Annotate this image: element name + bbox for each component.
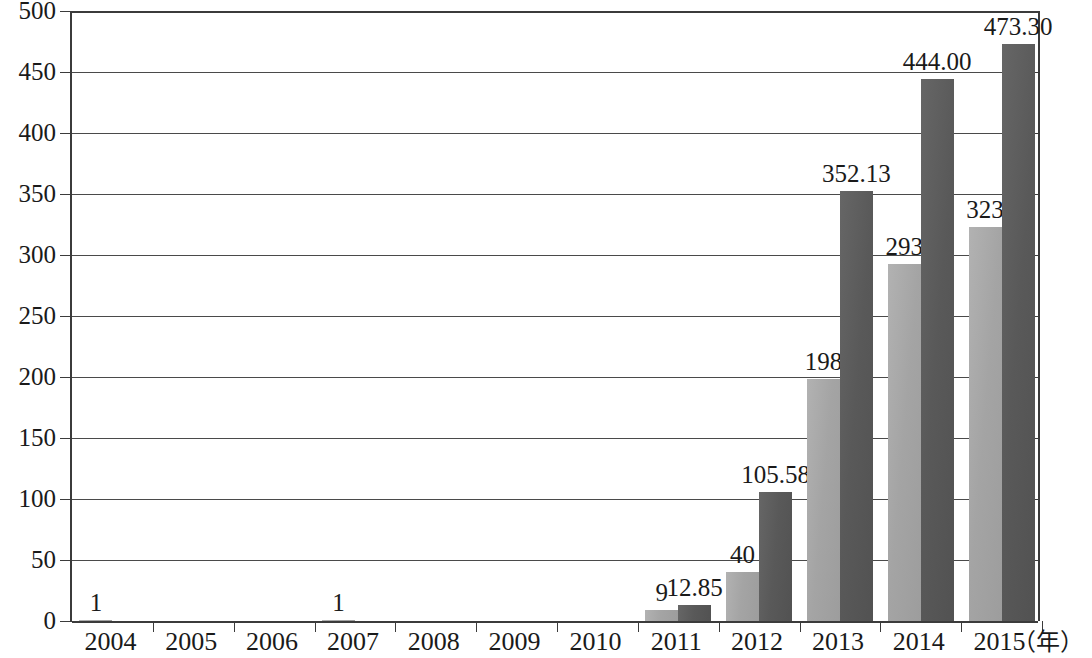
x-axis-unit-label: （年） [1012, 626, 1084, 658]
bar-value-label: 40 [730, 541, 755, 569]
y-tick-label: 250 [19, 300, 57, 331]
x-tick-label-2009: 2009 [474, 626, 555, 658]
bar-group [234, 11, 315, 621]
x-axis-line [72, 621, 1038, 623]
bar-group [153, 11, 234, 621]
bar-series-b-2013[interactable]: 352.13 [840, 191, 873, 621]
y-tick-label: 150 [19, 422, 57, 453]
bar-group: 323473.30 [961, 11, 1042, 621]
bar-group [476, 11, 557, 621]
y-tick-mark [60, 194, 72, 195]
x-tick-label-2007: 2007 [313, 626, 394, 658]
y-tick-mark [60, 438, 72, 439]
bar-value-label: 323 [966, 196, 1004, 224]
y-tick-mark [60, 499, 72, 500]
y-tick-mark [60, 621, 72, 622]
bar-value-label: 1 [90, 589, 103, 617]
bar-value-label: 198 [805, 348, 843, 376]
x-tick-label-2005: 2005 [151, 626, 232, 658]
bar-series-b-2012[interactable]: 105.58 [759, 492, 792, 621]
x-tick-label-2004: 2004 [70, 626, 151, 658]
y-tick-label: 450 [19, 56, 57, 87]
bar-chart: 05010015020025030035040045050011912.8540… [0, 0, 1092, 658]
x-axis-labels: 2004200520062007200820092010201120122013… [70, 626, 1040, 658]
y-tick-label: 200 [19, 361, 57, 392]
bar-pair: 40105.58 [719, 11, 800, 621]
x-tick-label-2014: 2014 [878, 626, 959, 658]
plot-area: 05010015020025030035040045050011912.8540… [70, 11, 1040, 621]
bar-series-a-2004[interactable]: 1 [79, 620, 112, 622]
bar-series-a-2015[interactable]: 323 [969, 227, 1002, 621]
bar-series-a-2012[interactable]: 40 [726, 572, 759, 621]
x-tick-label-2012: 2012 [717, 626, 798, 658]
bar-pair [153, 11, 234, 621]
bar-group: 1 [72, 11, 153, 621]
x-tick-label-2013: 2013 [798, 626, 879, 658]
y-tick-mark [60, 316, 72, 317]
bar-pair: 912.85 [638, 11, 719, 621]
y-tick-mark [60, 133, 72, 134]
bar-value-label: 293 [885, 233, 923, 261]
bar-group: 912.85 [638, 11, 719, 621]
bar-series-b-2014[interactable]: 444.00 [921, 79, 954, 621]
y-tick-label: 350 [19, 178, 57, 209]
y-tick-mark [60, 560, 72, 561]
bar-pair [234, 11, 315, 621]
y-tick-label: 300 [19, 239, 57, 270]
bar-series-a-2014[interactable]: 293 [888, 264, 921, 621]
bar-group: 293444.00 [880, 11, 961, 621]
x-tick-label-2010: 2010 [555, 626, 636, 658]
bar-pair: 198352.13 [800, 11, 881, 621]
bar-series-b-2011[interactable]: 12.85 [678, 605, 711, 621]
bar-value-label: 12.85 [667, 574, 723, 602]
y-tick-label: 0 [44, 605, 57, 636]
bar-value-label: 1 [332, 589, 345, 617]
bar-pair [476, 11, 557, 621]
bar-pair [395, 11, 476, 621]
x-tick-label-2011: 2011 [636, 626, 717, 658]
y-tick-label: 100 [19, 483, 57, 514]
y-tick-label: 50 [31, 544, 56, 575]
bar-group: 40105.58 [719, 11, 800, 621]
y-tick-mark [60, 255, 72, 256]
bar-value-label: 473.30 [984, 13, 1053, 41]
bar-series-a-2007[interactable]: 1 [322, 620, 355, 622]
y-tick-mark [60, 72, 72, 73]
bar-pair: 1 [315, 11, 396, 621]
bar-pair: 293444.00 [880, 11, 961, 621]
x-tick-label-2008: 2008 [393, 626, 474, 658]
bar-series-a-2013[interactable]: 198 [807, 379, 840, 621]
bar-group [557, 11, 638, 621]
y-tick-mark [60, 11, 72, 12]
y-tick-label: 400 [19, 117, 57, 148]
y-tick-label: 500 [19, 0, 57, 26]
bar-pair [557, 11, 638, 621]
bar-group: 1 [315, 11, 396, 621]
bar-group: 198352.13 [800, 11, 881, 621]
bar-pair: 323473.30 [961, 11, 1042, 621]
y-tick-mark [60, 377, 72, 378]
bar-group [395, 11, 476, 621]
bar-series-a-2011[interactable]: 9 [645, 610, 678, 621]
bar-series-b-2015[interactable]: 473.30 [1002, 44, 1035, 621]
x-tick-label-2006: 2006 [232, 626, 313, 658]
bar-pair: 1 [72, 11, 153, 621]
